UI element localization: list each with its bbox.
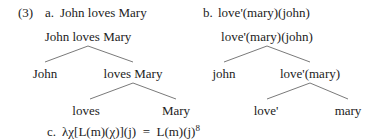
tree-a-right-right: Mary xyxy=(162,103,190,118)
part-c-formula: λχ[L(m)(χ)](j) = L(m)(j)8 xyxy=(62,124,200,139)
branch-a-root-right xyxy=(88,46,133,62)
tree-a-left: John xyxy=(33,66,58,81)
tree-b-root: love'(mary)(john) xyxy=(221,29,313,44)
tree-b-left: john xyxy=(212,66,235,81)
branch-a-vp-right xyxy=(133,83,176,99)
branch-a-root-left xyxy=(45,46,88,62)
part-b-label: b. xyxy=(203,5,213,20)
part-c-label: c. xyxy=(47,124,56,139)
branch-b-root-left xyxy=(224,46,267,62)
example-number: (3) xyxy=(18,5,33,20)
tree-b-right-left: love' xyxy=(254,103,279,118)
branch-a-vp-left xyxy=(90,83,133,99)
tree-b-right: love'(mary) xyxy=(280,66,340,81)
formula-text: λχ[L(m)(χ)](j) = L(m)(j) xyxy=(62,124,195,139)
branch-b-root-right xyxy=(267,46,310,62)
tree-b-right-right: mary xyxy=(335,103,362,118)
branch-b-vp-right xyxy=(310,83,348,99)
tree-a-right: loves Mary xyxy=(104,66,163,81)
tree-a-root: John loves Mary xyxy=(45,29,132,44)
tree-a-right-left: loves xyxy=(72,103,99,118)
part-a-label: a. xyxy=(45,5,54,20)
part-b-heading: love'(mary)(john) xyxy=(218,5,310,20)
branch-b-vp-left xyxy=(267,83,310,99)
footnote-marker[interactable]: 8 xyxy=(195,123,200,133)
part-a-heading: John loves Mary xyxy=(60,5,147,20)
